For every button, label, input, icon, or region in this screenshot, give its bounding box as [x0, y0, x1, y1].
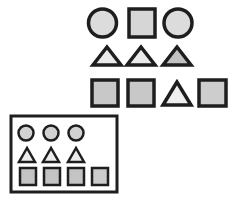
bottom-panel	[11, 116, 117, 192]
circle-shape	[89, 9, 117, 37]
square-shape	[128, 80, 154, 106]
top-shape-grid	[89, 9, 227, 106]
square-shape	[44, 168, 60, 185]
square-shape	[68, 168, 84, 185]
square-shape	[92, 168, 108, 185]
circle-shape	[69, 126, 84, 141]
triangle-shape	[127, 47, 155, 65]
triangle-shape-shaded	[163, 47, 191, 65]
square-shape	[20, 168, 36, 185]
shape-puzzle-diagram	[0, 0, 240, 207]
circle-shape	[44, 126, 59, 141]
square-shape	[92, 80, 118, 106]
square-shape	[199, 80, 226, 106]
circle-shape	[164, 9, 192, 37]
triangle-shape	[93, 47, 121, 65]
circle-shape	[19, 126, 34, 141]
triangle-shape	[163, 82, 191, 105]
square-shape	[129, 9, 155, 37]
